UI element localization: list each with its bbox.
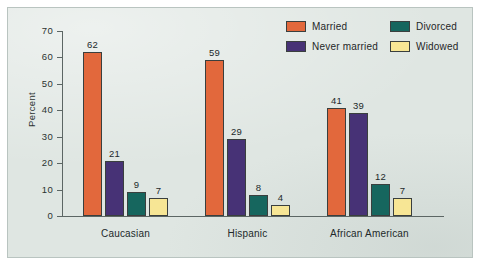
bar-chart-figure: Percent 010203040506070 622197Caucasian5…	[0, 0, 482, 271]
legend-swatch-married	[286, 21, 306, 32]
y-axis-tick	[57, 31, 62, 32]
legend-swatch-widowed	[390, 41, 410, 52]
y-axis-tick-label: 40	[31, 104, 53, 115]
legend-item-label: Widowed	[416, 41, 459, 52]
y-axis-tick-label: 0	[31, 210, 53, 221]
y-axis-tick-label: 50	[31, 78, 53, 89]
y-axis-tick	[57, 216, 62, 217]
legend-item: Never married	[286, 41, 378, 52]
y-axis-tick	[57, 190, 62, 191]
x-axis-line	[62, 216, 444, 217]
y-axis-tick-label: 60	[31, 51, 53, 62]
y-axis-tick	[57, 57, 62, 58]
y-axis-tick-label: 10	[31, 184, 53, 195]
legend-item: Married	[286, 21, 347, 32]
legend-item-label: Married	[312, 21, 347, 32]
y-axis-tick	[57, 84, 62, 85]
y-axis-tick-label: 30	[31, 131, 53, 142]
chart-legend: MarriedDivorcedNever marriedWidowed	[286, 21, 466, 59]
y-axis-tick	[57, 137, 62, 138]
legend-swatch-never-married	[286, 41, 306, 52]
y-axis-tick	[57, 163, 62, 164]
legend-swatch-divorced	[390, 21, 410, 32]
y-axis-tick	[57, 110, 62, 111]
y-axis-tick-label: 70	[31, 25, 53, 36]
y-axis-line	[62, 31, 63, 216]
legend-item: Divorced	[390, 21, 457, 32]
legend-item-label: Never married	[312, 41, 378, 52]
y-axis-tick-label: 20	[31, 157, 53, 168]
legend-item: Widowed	[390, 41, 459, 52]
legend-item-label: Divorced	[416, 21, 457, 32]
